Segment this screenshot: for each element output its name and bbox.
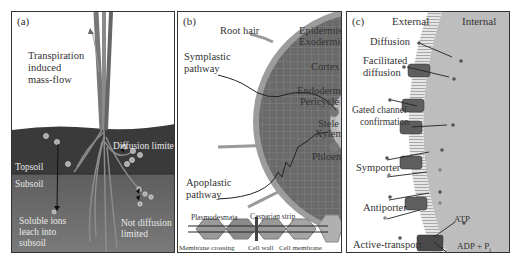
apoplastic-label: Apoplastic pathway [186, 177, 232, 201]
panel-tag: (b) [183, 15, 196, 27]
symporter-label: Symporter [356, 162, 400, 174]
plasmodesmata-label: Plasmodesmata [191, 212, 238, 224]
not-diffusion-limited-label: Not diffusion limited [121, 218, 172, 240]
soluble-ions-label: Soluble ions leach into subsoil [19, 216, 66, 249]
panel-b-root-pathways: (b) Root hair Epidermis Exodermis Cortex… [177, 11, 342, 253]
gated-channel-label: Gated channel confirmation [352, 104, 409, 128]
atp-label: ATP [454, 213, 470, 225]
external-label: External [392, 15, 429, 27]
cortex-label: Cortex [311, 61, 340, 73]
antiporter-label: Antiporter [363, 202, 407, 214]
membrane-crossing-label: Membrane crossing [179, 242, 234, 253]
membrane-illustration [347, 12, 510, 253]
diffusion-label: Diffusion [370, 36, 410, 48]
panel-c-membrane-transport: (c) External Internal Diffusion Facilita… [346, 11, 510, 253]
adp-label: ADP + Pi [457, 240, 491, 253]
transpiration-label: Transpiration induced mass-flow [28, 50, 84, 86]
topsoil-label: Topsoil [15, 161, 43, 173]
cell-wall-label: Cell wall [248, 242, 273, 253]
phloem-label: Phloem [312, 151, 342, 163]
diffusion-limited-label: Diffusion limited [113, 140, 175, 152]
casparian-strip-label: Casparian strip [250, 211, 295, 223]
xylem [329, 107, 339, 117]
panel-tag: (c) [352, 15, 364, 27]
panel-tag: (a) [17, 15, 29, 27]
pericycle-label: Pericycle [300, 96, 339, 108]
transpiration-arrow-icon [88, 28, 94, 34]
panel-a-soil-uptake: (a) Transpiration induced mass-flow Diff… [11, 11, 175, 253]
subsoil-label: Subsoil [15, 178, 44, 190]
exodermis-label: Exodermis [299, 36, 342, 48]
facilitated-diffusion-label: Facilitated diffusion [363, 55, 407, 79]
cell-membrane-label: Cell membrane [279, 242, 322, 253]
active-transport-label: Active-transport [353, 239, 422, 251]
internal-label: Internal [462, 15, 496, 27]
symplastic-label: Symplastic pathway [184, 51, 231, 75]
xylem-label: Xylem [315, 128, 342, 140]
root-hair-label: Root hair [220, 25, 259, 37]
